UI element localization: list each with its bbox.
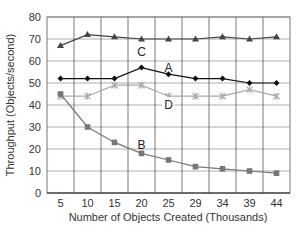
square-marker [85, 124, 91, 130]
diamond-marker [85, 76, 91, 82]
y-tick-label: 40 [29, 99, 41, 111]
y-axis-ticks: 01020304050607080 [29, 11, 41, 199]
y-tick-label: 30 [29, 121, 41, 133]
series-a: A [58, 61, 280, 86]
square-marker [58, 91, 64, 97]
x-tick-label: 15 [108, 197, 120, 209]
square-marker [166, 157, 172, 163]
square-marker [112, 140, 118, 146]
y-tick-label: 50 [29, 77, 41, 89]
series-label-b: B [137, 138, 145, 152]
x-tick-label: 10 [81, 197, 93, 209]
series-label-a: A [164, 61, 172, 75]
y-tick-label: 10 [29, 165, 41, 177]
y-tick-label: 20 [29, 143, 41, 155]
x-axis-ticks: 51015202529343944 [57, 197, 282, 209]
diamond-marker [58, 76, 64, 82]
square-marker [274, 170, 280, 176]
x-tick-label: 44 [270, 197, 282, 209]
series-c: C [57, 31, 280, 59]
x-axis-label: Number of Objects Created (Thousands) [69, 211, 268, 223]
diamond-marker [220, 76, 226, 82]
triangle-marker [84, 31, 91, 37]
diamond-marker [247, 80, 253, 86]
y-tick-label: 80 [29, 11, 41, 23]
x-tick-label: 25 [162, 197, 174, 209]
y-tick-label: 70 [29, 33, 41, 45]
y-axis-label: Throughput (Objects/second) [4, 34, 16, 176]
series-label-d: D [164, 98, 173, 112]
x-tick-label: 39 [243, 197, 255, 209]
series-group: CADB [57, 31, 280, 176]
y-tick-label: 60 [29, 55, 41, 67]
square-marker [220, 166, 226, 172]
series-label-c: C [137, 45, 146, 59]
x-tick-label: 5 [57, 197, 63, 209]
triangle-marker [273, 33, 280, 39]
diamond-marker [112, 76, 118, 82]
series-d: D [58, 82, 280, 113]
square-marker [247, 168, 253, 174]
x-tick-label: 34 [216, 197, 228, 209]
y-tick-label: 0 [35, 187, 41, 199]
triangle-marker [219, 33, 226, 39]
diamond-marker [139, 65, 145, 71]
x-tick-label: 29 [189, 197, 201, 209]
diamond-marker [193, 76, 199, 82]
x-tick-label: 20 [135, 197, 147, 209]
square-marker [193, 164, 199, 170]
diamond-marker [274, 80, 280, 86]
line-chart: 01020304050607080 51015202529343944 CADB… [0, 0, 303, 232]
